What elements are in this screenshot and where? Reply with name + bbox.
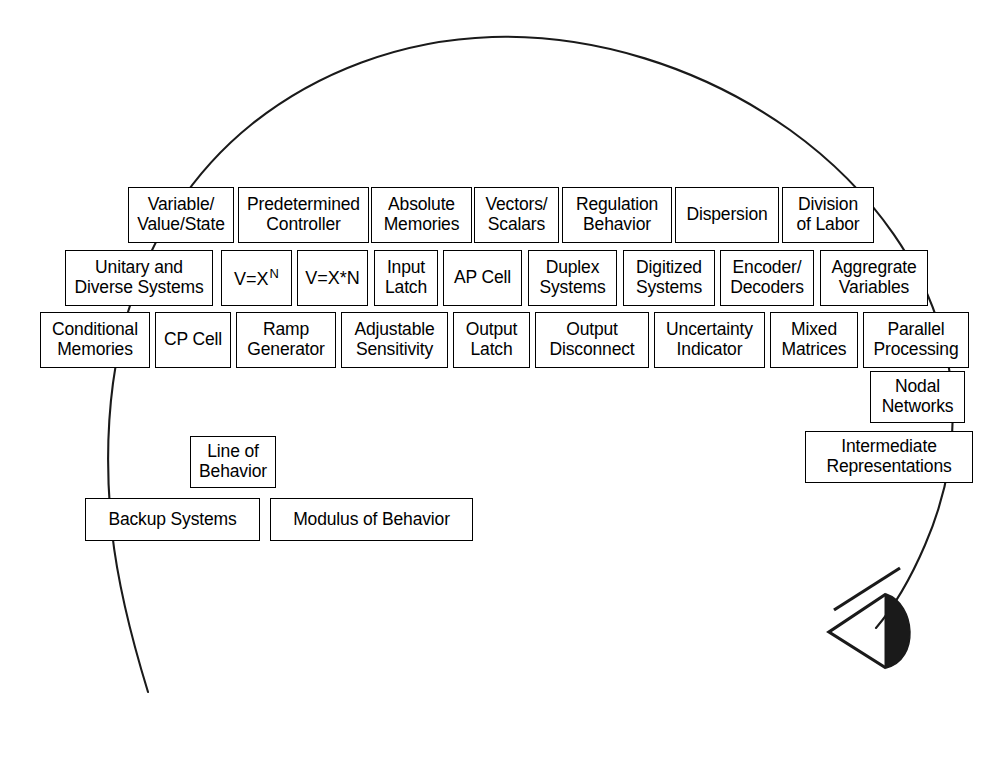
module-input-latch[interactable]: Input Latch [374,250,438,306]
brain-modules-diagram: Variable/ Value/StatePredetermined Contr… [0,0,991,762]
module-backup-systems-label: Backup Systems [89,510,256,530]
module-output-latch-label: Output Latch [457,320,526,359]
module-line-of-behavior[interactable]: Line of Behavior [190,436,276,488]
module-mixed-matrices[interactable]: Mixed Matrices [770,312,858,368]
module-v-equals-x-power-n[interactable]: V=XN [221,250,292,306]
module-regulation-behavior-label: Regulation Behavior [566,195,668,234]
module-predetermined-controller-label: Predetermined Controller [242,195,365,234]
eye-triangle-outline [829,594,886,668]
module-adjustable-sensitivity-label: Adjustable Sensitivity [345,320,444,359]
module-v-equals-x-times-n[interactable]: V=X*N [297,250,368,306]
module-vectors-scalars-label: Vectors/ Scalars [478,195,555,234]
module-aggregrate-variables[interactable]: Aggregrate Variables [820,250,928,306]
module-aggregrate-variables-label: Aggregrate Variables [824,258,924,297]
module-output-disconnect[interactable]: Output Disconnect [535,312,649,368]
nose-line [834,568,900,610]
module-uncertainty-indicator-label: Uncertainty Indicator [658,320,761,359]
module-intermediate-representations-label: Intermediate Representations [809,437,969,476]
module-adjustable-sensitivity[interactable]: Adjustable Sensitivity [341,312,448,368]
module-v-equals-x-power-n-label: V=XN [225,267,288,289]
module-uncertainty-indicator[interactable]: Uncertainty Indicator [654,312,765,368]
module-predetermined-controller[interactable]: Predetermined Controller [238,187,369,243]
module-digitized-systems-label: Digitized Systems [627,258,711,297]
module-input-latch-label: Input Latch [378,258,434,297]
module-unitary-and-diverse-systems[interactable]: Unitary and Diverse Systems [65,250,213,306]
eye-pupil-halfdisc [886,594,910,668]
head-profile-graphic [0,0,991,762]
module-division-of-labor[interactable]: Division of Labor [782,187,874,243]
module-dispersion-label: Dispersion [679,205,775,225]
module-encoder-decoders-label: Encoder/ Decoders [724,258,810,297]
module-vectors-scalars[interactable]: Vectors/ Scalars [474,187,559,243]
module-nodal-networks-label: Nodal Networks [874,377,961,416]
module-intermediate-representations[interactable]: Intermediate Representations [805,431,973,483]
module-digitized-systems[interactable]: Digitized Systems [623,250,715,306]
module-regulation-behavior[interactable]: Regulation Behavior [562,187,672,243]
module-duplex-systems-label: Duplex Systems [532,258,613,297]
module-modulus-of-behavior[interactable]: Modulus of Behavior [270,498,473,541]
module-ap-cell[interactable]: AP Cell [443,250,522,306]
module-unitary-and-diverse-systems-label: Unitary and Diverse Systems [69,258,209,297]
module-output-latch[interactable]: Output Latch [453,312,530,368]
module-line-of-behavior-label: Line of Behavior [194,442,272,481]
module-modulus-of-behavior-label: Modulus of Behavior [274,510,469,530]
module-division-of-labor-label: Division of Labor [786,195,870,234]
module-backup-systems[interactable]: Backup Systems [85,498,260,541]
module-v-equals-x-times-n-label: V=X*N [301,268,364,288]
module-nodal-networks[interactable]: Nodal Networks [870,371,965,423]
module-variable-value-state[interactable]: Variable/ Value/State [128,187,234,243]
module-parallel-processing-label: Parallel Processing [867,320,965,359]
module-conditional-memories[interactable]: Conditional Memories [40,312,150,368]
module-cp-cell[interactable]: CP Cell [155,312,231,368]
module-cp-cell-label: CP Cell [159,330,227,350]
module-ap-cell-label: AP Cell [447,268,518,288]
module-conditional-memories-label: Conditional Memories [44,320,146,359]
module-ramp-generator[interactable]: Ramp Generator [236,312,336,368]
module-encoder-decoders[interactable]: Encoder/ Decoders [720,250,814,306]
module-v-equals-x-power-n-exponent: N [270,266,279,281]
module-dispersion[interactable]: Dispersion [675,187,779,243]
module-parallel-processing[interactable]: Parallel Processing [863,312,969,368]
module-absolute-memories[interactable]: Absolute Memories [371,187,472,243]
module-output-disconnect-label: Output Disconnect [539,320,645,359]
module-duplex-systems[interactable]: Duplex Systems [528,250,617,306]
module-mixed-matrices-label: Mixed Matrices [774,320,854,359]
module-ramp-generator-label: Ramp Generator [240,320,332,359]
module-absolute-memories-label: Absolute Memories [375,195,468,234]
module-variable-value-state-label: Variable/ Value/State [132,195,230,234]
